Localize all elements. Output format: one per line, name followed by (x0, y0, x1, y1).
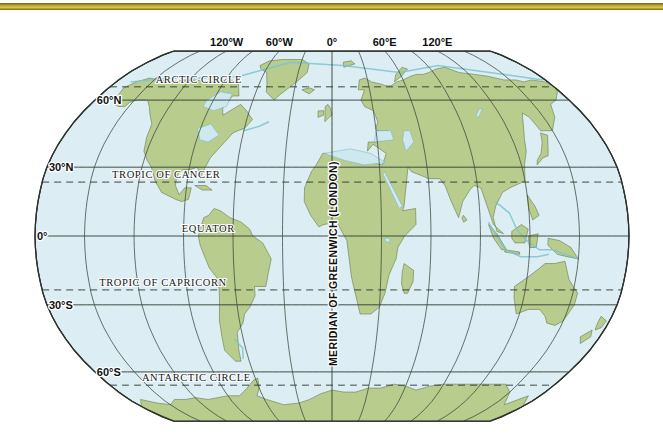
longitude-labels-group: 120°W60°W0°60°E120°E (210, 36, 452, 48)
longitude-label-lon-120e: 120°E (422, 36, 452, 48)
longitude-label-lon-120w: 120°W (210, 36, 244, 48)
named-line-label-equator: EQUATOR (182, 223, 235, 234)
named-line-label-tropic-of-capricorn: TROPIC OF CAPRICORN (99, 277, 227, 288)
latitude-label-lat-60s: 60°S (97, 366, 121, 378)
latitude-label-lat-30n: 30°N (49, 161, 74, 173)
latitude-label-lat-30s: 30°S (49, 299, 73, 311)
prime-meridian-label: MERIDIAN OF GREENWICH (LONDON) (327, 161, 339, 366)
longitude-label-lon-60w: 60°W (266, 36, 294, 48)
named-line-label-arctic-circle: ARCTIC CIRCLE (156, 74, 242, 85)
world-map-page: 120°W60°W0°60°E120°E 60°N30°N0°30°S60°S … (0, 0, 663, 442)
named-line-label-tropic-of-cancer: TROPIC OF CANCER (112, 169, 220, 180)
decorative-gold-rule (0, 3, 663, 10)
world-map-svg: 120°W60°W0°60°E120°E 60°N30°N0°30°S60°S … (0, 10, 663, 442)
latitude-label-lat-60n: 60°N (97, 94, 122, 106)
world-map-figure: 120°W60°W0°60°E120°E 60°N30°N0°30°S60°S … (0, 10, 663, 442)
longitude-label-lon-60e: 60°E (373, 36, 397, 48)
named-line-label-antarctic-circle: ANTARCTIC CIRCLE (142, 372, 251, 383)
prime-meridian-label-group: MERIDIAN OF GREENWICH (LONDON) (327, 161, 339, 366)
longitude-label-lon-0: 0° (327, 36, 338, 48)
latitude-label-lat-0: 0° (37, 230, 48, 242)
